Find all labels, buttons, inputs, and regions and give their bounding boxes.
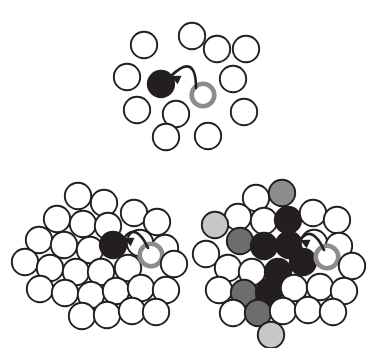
- lattice-site-empty: [231, 99, 257, 125]
- lattice-site-empty: [65, 183, 91, 209]
- lattice-site-empty: [69, 303, 95, 329]
- lattice-site-empty: [70, 211, 96, 237]
- lattice-site-empty: [324, 207, 350, 233]
- lattice-atom-dark: [290, 249, 316, 275]
- lattice-atom-dark: [148, 71, 174, 97]
- lattice-site-empty: [161, 251, 187, 277]
- lattice-atom-dark: [251, 233, 277, 259]
- lattice-site-empty: [339, 253, 365, 279]
- lattice-site-empty: [27, 276, 53, 302]
- gradient-lattice-panel: [193, 180, 365, 348]
- lattice-site-empty: [320, 299, 346, 325]
- lattice-site-empty: [131, 32, 157, 58]
- lattice-atom-mid-light: [269, 180, 295, 206]
- lattice-site-empty: [119, 298, 145, 324]
- lattice-atom-light: [202, 212, 228, 238]
- figure-root: [0, 0, 383, 348]
- lattice-site-empty: [195, 123, 221, 149]
- lattice-site-empty: [220, 300, 246, 326]
- lattice-site-empty: [153, 124, 179, 150]
- lattice-site-empty: [251, 208, 277, 234]
- lattice-site-empty: [52, 280, 78, 306]
- lattice-site-empty: [143, 299, 169, 325]
- lattice-site-empty: [206, 277, 232, 303]
- lattice-atom-light: [258, 322, 284, 348]
- lattice-site-empty: [204, 36, 230, 62]
- lattice-site-empty: [270, 298, 296, 324]
- lattice-site-empty: [44, 206, 70, 232]
- lattice-vacancy-ring: [140, 244, 163, 267]
- dense-lattice-panel: [12, 183, 187, 329]
- lattice-site-empty: [91, 190, 117, 216]
- lattice-site-empty: [179, 23, 205, 49]
- lattice-site-empty: [124, 97, 150, 123]
- lattice-atom-mid: [227, 228, 253, 254]
- lattice-vacancy-ring: [316, 246, 339, 269]
- lattice-site-empty: [114, 64, 140, 90]
- sparse-lattice-panel: [114, 23, 259, 150]
- lattice-site-empty: [300, 200, 326, 226]
- lattice-site-empty: [233, 36, 259, 62]
- lattice-site-empty: [51, 232, 77, 258]
- lattice-atom-dark: [100, 232, 126, 258]
- lattice-site-empty: [12, 249, 38, 275]
- lattice-site-empty: [295, 297, 321, 323]
- lattice-diagram-canvas: [0, 0, 383, 348]
- lattice-site-empty: [94, 302, 120, 328]
- lattice-atom-dark: [275, 207, 301, 233]
- lattice-site-empty: [220, 66, 246, 92]
